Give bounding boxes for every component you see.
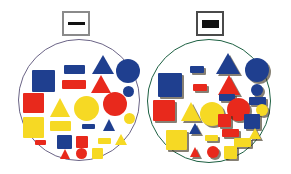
yellow-square [92,148,103,159]
red-rect [62,80,86,89]
badge-flat[interactable] [62,11,90,36]
blue-circle [245,58,269,82]
flat-shapes-circle [18,39,140,161]
yellow-triangle [50,98,70,117]
shape-layer [19,40,139,160]
red-square [23,93,44,113]
yellow-rect [98,138,111,144]
yellow-circle [74,96,99,121]
blue-triangle [189,123,201,134]
blue-circle [251,84,263,96]
red-circle [103,92,127,116]
blue-circle [116,59,140,83]
yellow-square [224,146,237,159]
blue-rect [190,66,204,73]
yellow-triangle [249,128,261,139]
red-triangle [91,75,111,93]
red-triangle [60,149,70,159]
blue-square [57,135,72,149]
yellow-square [23,117,44,138]
red-square [76,136,88,148]
blue-rect [82,124,95,129]
red-rect [222,129,239,137]
red-triangle [190,147,200,157]
badge-raised[interactable] [196,11,224,36]
red-square [218,114,231,127]
blue-triangle [103,119,115,131]
yellow-triangle [115,134,127,145]
red-triangle [218,75,240,95]
blue-rect [64,65,85,74]
figure-canvas [0,0,291,174]
red-rect [35,140,46,145]
yellow-rect [205,135,218,141]
shape-layer [148,40,270,162]
blue-square [244,114,260,129]
red-circle [207,146,219,158]
flat-bar-icon [68,22,85,25]
raised-shapes-circle [147,39,271,163]
thick-bar-icon [202,20,219,28]
blue-square [32,70,55,92]
red-circle [76,148,87,159]
blue-triangle [92,55,114,74]
yellow-rect [50,121,71,131]
red-rect [193,84,207,91]
blue-circle [123,86,134,97]
yellow-triangle [181,102,201,121]
blue-square [158,73,182,97]
blue-triangle [216,53,240,74]
yellow-circle [124,113,135,124]
red-square [153,100,175,121]
yellow-square [166,130,187,150]
